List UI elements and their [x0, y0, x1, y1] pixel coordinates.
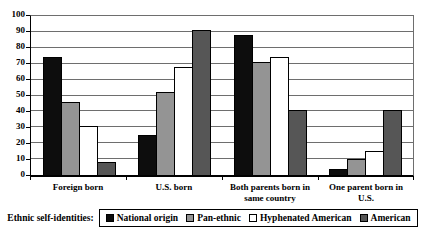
legend: Ethnic self-identities: National originP… — [0, 209, 425, 227]
legend-entry-label: Pan-ethnic — [197, 213, 241, 223]
legend-prefix-label: Ethnic self-identities: — [7, 213, 93, 223]
y-axis-tick-label: 0 — [21, 170, 26, 179]
x-axis-labels: Foreign bornU.S. bornBoth parents born i… — [30, 182, 414, 205]
bar-pan-ethnic — [156, 92, 175, 175]
x-axis-category-label: Foreign born — [30, 182, 126, 205]
bar-hyphenated-american — [79, 126, 98, 175]
y-axis-tick-label: 100 — [12, 10, 26, 19]
bar-american — [288, 110, 307, 175]
y-axis-tick — [26, 31, 30, 32]
bar-national-origin — [43, 57, 62, 175]
legend-swatch-icon — [106, 214, 114, 222]
x-axis-category-label: Both parents born in same country — [222, 182, 318, 205]
x-axis-tick — [318, 176, 319, 180]
bar-group — [31, 16, 127, 175]
x-axis-tick — [126, 176, 127, 180]
legend-entry: American — [360, 213, 411, 223]
y-axis-tick-label: 60 — [16, 74, 25, 83]
bar-chart: 0102030405060708090100 Foreign bornU.S. … — [0, 0, 425, 234]
y-axis-tick — [26, 143, 30, 144]
legend-entry: Pan-ethnic — [186, 213, 241, 223]
legend-entry-label: Hyphenated American — [260, 213, 352, 223]
y-axis-tick — [26, 47, 30, 48]
y-axis-tick — [26, 95, 30, 96]
y-axis-tick-label: 90 — [16, 26, 25, 35]
y-axis-tick — [26, 111, 30, 112]
legend-entry: National origin — [106, 213, 179, 223]
y-axis-tick — [26, 127, 30, 128]
plot-area — [30, 15, 414, 177]
y-axis-tick — [26, 79, 30, 80]
x-axis-tick — [413, 176, 414, 180]
y-axis-tick — [26, 159, 30, 160]
bar-hyphenated-american — [174, 67, 193, 175]
y-axis-tick-label: 50 — [16, 90, 25, 99]
y-axis-tick-label: 70 — [16, 58, 25, 67]
bar-american — [192, 30, 211, 175]
y-axis-tick-label: 40 — [16, 106, 25, 115]
bar-pan-ethnic — [61, 102, 80, 175]
legend-entry: Hyphenated American — [249, 213, 352, 223]
x-axis-category-label: U.S. born — [126, 182, 222, 205]
bar-group — [222, 16, 318, 175]
bar-pan-ethnic — [252, 62, 271, 175]
legend-box: National originPan-ethnicHyphenated Amer… — [99, 209, 418, 227]
legend-entry-label: American — [371, 213, 411, 223]
y-axis-tick-label: 20 — [16, 138, 25, 147]
bar-group — [127, 16, 223, 175]
legend-swatch-icon — [360, 214, 368, 222]
x-axis-category-label: One parent born in U.S. — [318, 182, 414, 205]
y-axis-tick — [26, 63, 30, 64]
bar-hyphenated-american — [365, 151, 384, 175]
legend-entry-label: National origin — [117, 213, 179, 223]
y-axis-tick-label: 80 — [16, 42, 25, 51]
bar-group — [318, 16, 414, 175]
bar-national-origin — [329, 169, 348, 175]
y-axis-tick — [26, 15, 30, 16]
bar-pan-ethnic — [347, 159, 366, 175]
x-axis-tick — [222, 176, 223, 180]
bar-hyphenated-american — [270, 57, 289, 175]
legend-swatch-icon — [186, 214, 194, 222]
x-axis-tick — [30, 176, 31, 180]
y-axis-tick-label: 10 — [16, 154, 25, 163]
y-axis-labels: 0102030405060708090100 — [0, 15, 25, 175]
bar-national-origin — [138, 135, 157, 175]
y-axis-tick-label: 30 — [16, 122, 25, 131]
legend-swatch-icon — [249, 214, 257, 222]
bar-american — [97, 162, 116, 175]
bar-national-origin — [234, 35, 253, 175]
bar-american — [383, 110, 402, 175]
